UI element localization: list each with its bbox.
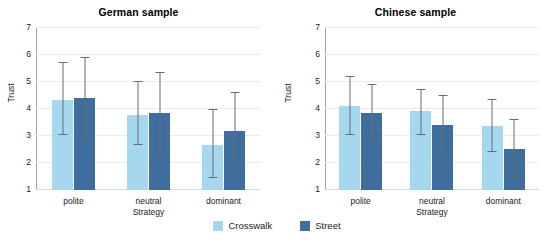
y-tick-label-german-6: 6 — [26, 49, 31, 59]
bar-group-german-polite: polite — [36, 28, 111, 190]
legend-item-crosswalk: Crosswalk — [213, 220, 272, 231]
legend-label-crosswalk: Crosswalk — [228, 220, 272, 231]
bar-slot-chinese-neutral-street — [432, 28, 453, 190]
bar-slot-chinese-dominant-crosswalk — [482, 28, 503, 190]
bar-slot-german-neutral-street — [149, 28, 170, 190]
plot-area-chinese: 1234567 politeneutraldominant Strategy — [325, 28, 539, 190]
x-tick-label-chinese-neutral: neutral — [396, 196, 467, 206]
error-cap-lower-german-neutral-street — [155, 152, 164, 153]
chart-panel-german: German sample Trust 1234567 politeneutra… — [0, 0, 277, 214]
chart-title-german: German sample — [0, 6, 277, 18]
error-cap-upper-german-dominant-crosswalk — [208, 109, 217, 110]
bar-groups-chinese: politeneutraldominant — [325, 28, 539, 190]
y-tick-label-chinese-7: 7 — [315, 22, 320, 32]
plot-area-german: 1234567 politeneutraldominant Strategy — [36, 28, 261, 190]
error-cap-lower-german-polite-street — [80, 136, 89, 137]
error-cap-upper-chinese-polite-crosswalk — [345, 76, 354, 77]
error-cap-upper-german-dominant-street — [230, 92, 239, 93]
error-cap-upper-chinese-dominant-crosswalk — [488, 99, 497, 100]
error-cap-upper-german-polite-crosswalk — [58, 62, 67, 63]
y-tick-label-german-7: 7 — [26, 22, 31, 32]
y-tick-label-german-5: 5 — [26, 76, 31, 86]
y-tick-label-chinese-2: 2 — [315, 157, 320, 167]
x-tick-label-german-neutral: neutral — [111, 196, 186, 206]
error-bar-chinese-polite-crosswalk — [349, 77, 350, 135]
y-tick-label-german-3: 3 — [26, 130, 31, 140]
y-tick-label-chinese-5: 5 — [315, 76, 320, 86]
bar-slot-chinese-neutral-crosswalk — [410, 28, 431, 190]
error-bar-chinese-dominant-crosswalk — [492, 100, 493, 151]
error-bar-chinese-neutral-street — [442, 96, 443, 155]
error-cap-upper-german-neutral-crosswalk — [133, 81, 142, 82]
bar-slot-chinese-polite-street — [361, 28, 382, 190]
bar-slot-german-dominant-street — [224, 28, 245, 190]
bar-slot-german-dominant-crosswalk — [202, 28, 223, 190]
error-cap-lower-chinese-dominant-crosswalk — [488, 151, 497, 152]
error-bar-german-dominant-street — [234, 93, 235, 168]
bar-slot-chinese-polite-crosswalk — [339, 28, 360, 190]
error-cap-upper-chinese-polite-street — [367, 84, 376, 85]
bar-slot-german-polite-street — [74, 28, 95, 190]
error-cap-lower-chinese-polite-street — [367, 140, 376, 141]
error-cap-lower-chinese-neutral-crosswalk — [416, 134, 425, 135]
legend-item-street: Street — [300, 220, 340, 231]
bar-group-chinese-polite: polite — [325, 28, 396, 190]
y-tick-label-german-2: 2 — [26, 157, 31, 167]
error-cap-lower-german-neutral-crosswalk — [133, 144, 142, 145]
bar-slot-german-polite-crosswalk — [52, 28, 73, 190]
error-bar-german-neutral-crosswalk — [137, 82, 138, 145]
error-bar-german-neutral-street — [159, 73, 160, 153]
error-cap-lower-german-dominant-street — [230, 167, 239, 168]
y-axis-label-german: Trust — [6, 63, 16, 123]
bar-groups-german: politeneutraldominant — [36, 28, 261, 190]
error-bar-chinese-neutral-crosswalk — [420, 90, 421, 136]
error-cap-lower-chinese-dominant-street — [510, 177, 519, 178]
chart-panels: German sample Trust 1234567 politeneutra… — [0, 0, 554, 214]
x-tick-label-chinese-polite: polite — [325, 196, 396, 206]
error-cap-upper-german-neutral-street — [155, 72, 164, 73]
error-cap-upper-chinese-neutral-street — [438, 95, 447, 96]
x-axis-label-german: Strategy — [36, 207, 261, 217]
error-cap-lower-german-dominant-crosswalk — [208, 177, 217, 178]
error-bar-german-polite-crosswalk — [62, 63, 63, 135]
bar-group-chinese-dominant: dominant — [468, 28, 539, 190]
plot-canvas-chinese: 1234567 politeneutraldominant — [325, 28, 539, 190]
y-tick-label-chinese-3: 3 — [315, 130, 320, 140]
legend-swatch-street-icon — [300, 221, 310, 231]
error-cap-upper-chinese-neutral-crosswalk — [416, 89, 425, 90]
figure-bar-charts: German sample Trust 1234567 politeneutra… — [0, 0, 554, 248]
bar-group-german-dominant: dominant — [186, 28, 261, 190]
chart-panel-chinese: Chinese sample Trust 1234567 politeneutr… — [277, 0, 554, 214]
error-cap-lower-chinese-polite-crosswalk — [345, 134, 354, 135]
x-axis-label-chinese: Strategy — [325, 207, 539, 217]
error-bar-chinese-dominant-street — [514, 120, 515, 178]
y-axis-label-chinese: Trust — [283, 63, 293, 123]
bar-slot-chinese-dominant-street — [504, 28, 525, 190]
bar-slot-german-neutral-crosswalk — [127, 28, 148, 190]
plot-canvas-german: 1234567 politeneutraldominant — [36, 28, 261, 190]
x-tick-label-german-dominant: dominant — [186, 196, 261, 206]
error-cap-lower-german-polite-crosswalk — [58, 134, 67, 135]
bar-group-chinese-neutral: neutral — [396, 28, 467, 190]
y-tick-label-german-4: 4 — [26, 103, 31, 113]
error-bar-chinese-polite-street — [371, 85, 372, 141]
bar-group-german-neutral: neutral — [111, 28, 186, 190]
error-bar-german-polite-street — [84, 58, 85, 137]
x-tick-label-german-polite: polite — [36, 196, 111, 206]
error-cap-upper-german-polite-street — [80, 57, 89, 58]
y-tick-label-german-1: 1 — [26, 184, 31, 194]
chart-title-chinese: Chinese sample — [277, 6, 554, 18]
x-tick-label-chinese-dominant: dominant — [468, 196, 539, 206]
error-bar-german-dominant-crosswalk — [212, 110, 213, 178]
legend-label-street: Street — [315, 220, 340, 231]
error-cap-lower-chinese-neutral-street — [438, 154, 447, 155]
y-tick-label-chinese-4: 4 — [315, 103, 320, 113]
y-tick-label-chinese-6: 6 — [315, 49, 320, 59]
y-tick-label-chinese-1: 1 — [315, 184, 320, 194]
error-cap-upper-chinese-dominant-street — [510, 119, 519, 120]
chart-legend: Crosswalk Street — [0, 214, 554, 248]
legend-swatch-crosswalk-icon — [213, 221, 223, 231]
